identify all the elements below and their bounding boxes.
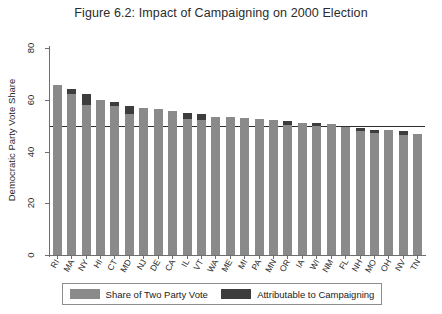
- bar-WI: [312, 123, 321, 255]
- bar-group: RIMANYHICTMDNJDECAILVTWAMEMIPAMNORIAWINM…: [50, 48, 425, 255]
- x-tick-label-CA: CA: [162, 258, 177, 273]
- bar-IL: [183, 113, 192, 255]
- bar-column: OH: [382, 48, 396, 255]
- x-tick-label-DE: DE: [148, 258, 163, 273]
- x-axis-line: [49, 255, 426, 256]
- x-tick-mark: [360, 255, 361, 259]
- bar-column: NH: [353, 48, 367, 255]
- x-tick-label-RI: RI: [49, 258, 62, 270]
- legend-item-share: Share of Two Party Vote: [70, 289, 208, 300]
- x-tick-label-NH: NH: [350, 258, 365, 274]
- x-tick-mark: [331, 255, 332, 259]
- y-tick-label: 40: [24, 141, 38, 163]
- x-tick-mark: [273, 255, 274, 259]
- bar-segment-share: [211, 117, 220, 255]
- bar-segment-share: [125, 114, 134, 255]
- x-tick-mark: [114, 255, 115, 259]
- bar-segment-share: [370, 133, 379, 255]
- bar-column: MD: [122, 48, 136, 255]
- bar-column: NV: [396, 48, 410, 255]
- x-tick-label-NJ: NJ: [134, 258, 148, 272]
- x-tick-mark: [129, 255, 130, 259]
- bar-MD: [125, 106, 134, 255]
- x-tick-mark: [388, 255, 389, 259]
- bar-FL: [341, 127, 350, 255]
- legend-swatch-share-icon: [70, 289, 100, 299]
- bar-segment-share: [298, 123, 307, 255]
- bar-segment-share: [154, 109, 163, 255]
- bar-segment-share: [269, 120, 278, 255]
- chart-legend: Share of Two Party Vote Attributable to …: [62, 283, 382, 305]
- bar-RI: [53, 85, 62, 255]
- bar-CA: [168, 111, 177, 255]
- y-tick-label: 0: [24, 244, 38, 266]
- bar-segment-share: [82, 105, 91, 255]
- x-tick-label-MO: MO: [363, 258, 379, 275]
- bar-column: MA: [64, 48, 78, 255]
- chart-title: Figure 6.2: Impact of Campaigning on 200…: [0, 6, 442, 20]
- bar-segment-share: [413, 134, 422, 255]
- bar-OR: [283, 121, 292, 255]
- x-tick-label-OH: OH: [378, 258, 393, 274]
- bar-column: CT: [108, 48, 122, 255]
- x-tick-label-IL: IL: [179, 258, 191, 269]
- bar-segment-share: [327, 124, 336, 255]
- bar-column: MI: [237, 48, 251, 255]
- bar-column: OR: [281, 48, 295, 255]
- x-tick-label-NM: NM: [320, 258, 335, 274]
- bar-column: IA: [295, 48, 309, 255]
- bar-segment-share: [255, 119, 264, 255]
- x-tick-label-ME: ME: [220, 258, 235, 274]
- bar-column: ME: [223, 48, 237, 255]
- x-tick-label-NY: NY: [76, 258, 91, 273]
- x-tick-label-NV: NV: [393, 258, 408, 273]
- bar-column: NJ: [137, 48, 151, 255]
- x-tick-label-TN: TN: [408, 258, 422, 273]
- bar-column: DE: [151, 48, 165, 255]
- bar-column: HI: [93, 48, 107, 255]
- y-tick-label: 80: [24, 37, 38, 59]
- bar-segment-share: [96, 100, 105, 255]
- x-tick-label-OR: OR: [277, 258, 292, 274]
- x-tick-mark: [143, 255, 144, 259]
- bar-segment-campaigning: [183, 113, 192, 120]
- bar-column: RI: [50, 48, 64, 255]
- x-tick-mark: [417, 255, 418, 259]
- bar-column: TN: [411, 48, 425, 255]
- x-tick-mark: [403, 255, 404, 259]
- bar-segment-share: [67, 94, 76, 255]
- y-tick-mark: [45, 255, 50, 256]
- chart-figure: Figure 6.2: Impact of Campaigning on 200…: [0, 0, 442, 314]
- x-tick-label-WI: WI: [307, 258, 321, 272]
- x-tick-mark: [316, 255, 317, 259]
- bar-segment-share: [384, 130, 393, 255]
- x-tick-label-PA: PA: [249, 258, 263, 272]
- legend-label-share: Share of Two Party Vote: [106, 289, 208, 300]
- bar-segment-share: [356, 131, 365, 255]
- bar-column: IL: [180, 48, 194, 255]
- bar-NV: [399, 131, 408, 255]
- bar-segment-share: [183, 119, 192, 255]
- x-tick-mark: [187, 255, 188, 259]
- bar-column: PA: [252, 48, 266, 255]
- x-tick-mark: [215, 255, 216, 259]
- bar-segment-share: [240, 118, 249, 255]
- bar-segment-share: [341, 127, 350, 255]
- bar-segment-share: [139, 108, 148, 255]
- y-tick-label: 20: [24, 192, 38, 214]
- x-tick-mark: [57, 255, 58, 259]
- bar-IA: [298, 123, 307, 255]
- plot-area: 020406080 RIMANYHICTMDNJDECAILVTWAMEMIPA…: [50, 48, 425, 255]
- bar-segment-share: [312, 126, 321, 255]
- x-tick-mark: [374, 255, 375, 259]
- x-tick-label-FL: FL: [336, 258, 350, 272]
- x-tick-mark: [287, 255, 288, 259]
- bar-segment-campaigning: [125, 106, 134, 114]
- legend-label-campaigning: Attributable to Campaigning: [257, 289, 374, 300]
- bar-segment-share: [226, 117, 235, 255]
- x-tick-label-MI: MI: [236, 258, 249, 271]
- x-tick-mark: [345, 255, 346, 259]
- x-tick-label-HI: HI: [92, 258, 105, 270]
- bar-segment-share: [283, 125, 292, 255]
- bar-column: WI: [310, 48, 324, 255]
